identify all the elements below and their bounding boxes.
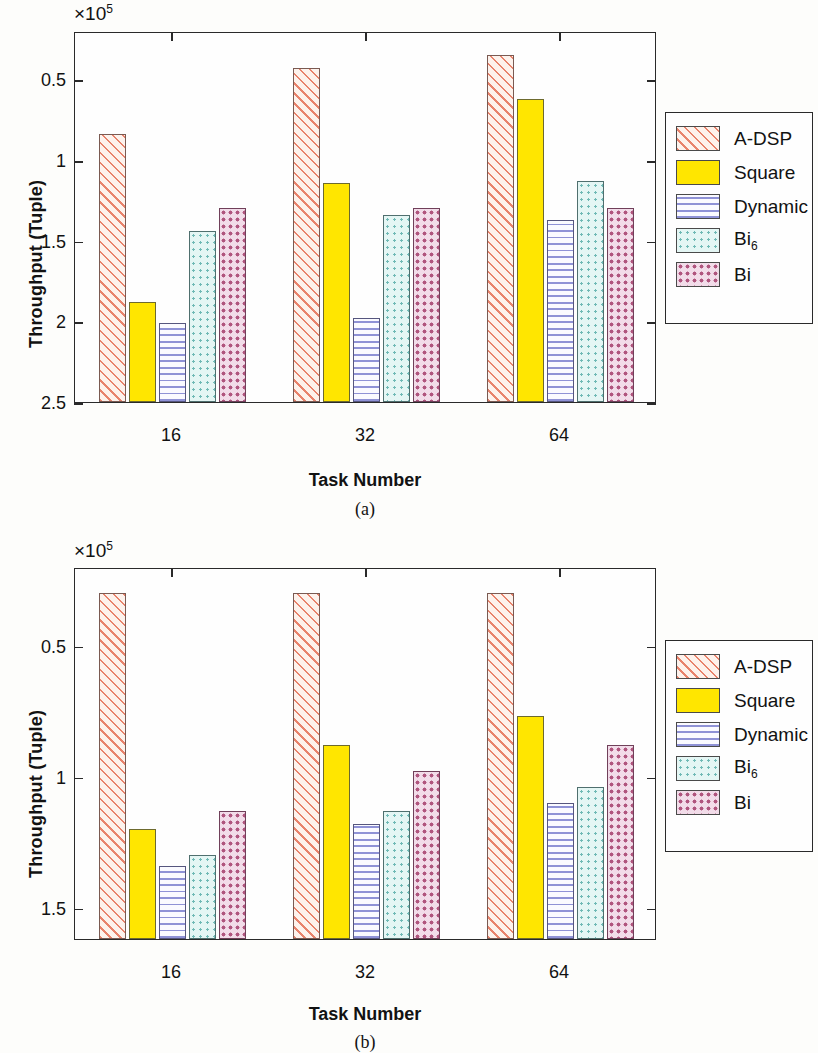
- legend-label-square: Square: [734, 163, 795, 182]
- y-tick-mark: [74, 80, 83, 82]
- x-tick-label-16: 16: [161, 962, 181, 983]
- y-tick-label: 2.5: [6, 393, 66, 414]
- bar-square-32: [323, 745, 350, 939]
- legend-swatch-bi6-icon: [676, 756, 720, 781]
- legend-item-b-1: Square: [676, 683, 802, 717]
- x-tick-label-32: 32: [355, 425, 375, 446]
- bar-dynamic-64: [547, 220, 574, 402]
- bar-square-64: [517, 716, 544, 939]
- x-tick-mark: [171, 32, 173, 41]
- y-tick-mark: [647, 403, 656, 405]
- legend-label-a-dsp: A-DSP: [734, 129, 792, 148]
- x-tick-mark: [559, 32, 561, 41]
- x-tick-mark: [365, 568, 367, 577]
- y-tick-mark: [647, 647, 656, 649]
- bar-bi6-64: [577, 181, 604, 402]
- x-tick-label-32: 32: [355, 962, 375, 983]
- bar-dynamic-32: [353, 824, 380, 939]
- bar-bi6-64: [577, 787, 604, 939]
- y-tick-mark: [647, 80, 656, 82]
- y-tick-label: 1: [6, 151, 66, 172]
- bar-square-64: [517, 99, 544, 402]
- y-tick-label: 1.5: [6, 231, 66, 252]
- legend-item-b-0: A-DSP: [676, 649, 802, 683]
- legend-swatch-bi-icon: [676, 262, 720, 287]
- bar-dynamic-32: [353, 318, 380, 402]
- legend-label-square: Square: [734, 691, 795, 710]
- x-axis-label-b: Task Number: [74, 1004, 656, 1025]
- y-axis-label-b: Throughput (Tuple): [26, 710, 47, 878]
- legend-label-dynamic: Dynamic: [734, 197, 808, 216]
- legend-swatch-dynamic-icon: [676, 722, 720, 747]
- y-axis-exponent-a: ×105: [74, 2, 113, 25]
- y-tick-mark: [74, 909, 83, 911]
- legend-item-a-3: Bi6: [676, 223, 802, 257]
- y-tick-mark: [647, 242, 656, 244]
- legend-item-b-4: Bi: [676, 785, 802, 819]
- x-axis-label-a: Task Number: [74, 470, 656, 491]
- legend-swatch-bi-icon: [676, 790, 720, 815]
- bar-a-dsp-32: [293, 68, 320, 402]
- y-tick-mark: [74, 161, 83, 163]
- y-tick-label: 2: [6, 312, 66, 333]
- plot-area-a: [74, 32, 656, 403]
- bar-bi-16: [219, 208, 246, 402]
- legend-swatch-a-dsp-icon: [676, 126, 720, 151]
- bar-a-dsp-16: [99, 134, 126, 402]
- y-tick-mark: [647, 778, 656, 780]
- bar-square-16: [129, 829, 156, 939]
- legend-item-b-2: Dynamic: [676, 717, 802, 751]
- legend-label-bi: Bi: [734, 793, 751, 812]
- y-tick-mark: [74, 322, 83, 324]
- bar-a-dsp-16: [99, 593, 126, 939]
- y-axis-exponent-b: ×105: [74, 539, 113, 562]
- legend-label-bi: Bi: [734, 265, 751, 284]
- figure-b: ×105 Throughput (Tuple) Task Number (b) …: [0, 523, 818, 1046]
- figure-caption-a: (a): [74, 499, 656, 520]
- y-tick-mark: [647, 909, 656, 911]
- legend-swatch-square-icon: [676, 160, 720, 185]
- legend-swatch-bi6-icon: [676, 228, 720, 253]
- bar-bi-64: [607, 745, 634, 939]
- bar-bi-64: [607, 208, 634, 402]
- bar-bi6-16: [189, 855, 216, 939]
- legend-swatch-square-icon: [676, 688, 720, 713]
- y-tick-mark: [647, 161, 656, 163]
- y-tick-mark: [647, 322, 656, 324]
- y-tick-label: 1: [6, 767, 66, 788]
- bar-a-dsp-64: [487, 593, 514, 939]
- legend-label-dynamic: Dynamic: [734, 725, 808, 744]
- bar-dynamic-16: [159, 323, 186, 402]
- legend-swatch-dynamic-icon: [676, 194, 720, 219]
- y-tick-label: 0.5: [6, 636, 66, 657]
- legend-label-bi6: Bi6: [734, 229, 758, 252]
- legend-b: A-DSP Square Dynamic Bi6 Bi: [665, 640, 813, 852]
- legend-item-b-3: Bi6: [676, 751, 802, 785]
- legend-label-a-dsp: A-DSP: [734, 657, 792, 676]
- x-tick-mark: [559, 568, 561, 577]
- legend-item-a-0: A-DSP: [676, 121, 802, 155]
- x-tick-label-16: 16: [161, 425, 181, 446]
- bar-a-dsp-32: [293, 593, 320, 939]
- x-tick-label-64: 64: [549, 962, 569, 983]
- bar-square-32: [323, 183, 350, 402]
- bar-dynamic-16: [159, 866, 186, 939]
- legend-item-a-1: Square: [676, 155, 802, 189]
- y-tick-label: 0.5: [6, 70, 66, 91]
- legend-a: A-DSP Square Dynamic Bi6 Bi: [665, 112, 813, 324]
- x-tick-label-64: 64: [549, 425, 569, 446]
- legend-label-bi6: Bi6: [734, 757, 758, 780]
- y-tick-mark: [74, 778, 83, 780]
- y-tick-mark: [74, 403, 83, 405]
- bar-dynamic-64: [547, 803, 574, 939]
- bar-square-16: [129, 302, 156, 402]
- y-tick-label: 1.5: [6, 898, 66, 919]
- bar-bi6-32: [383, 811, 410, 939]
- bar-bi-16: [219, 811, 246, 939]
- figure-a: ×105 Throughput (Tuple) Task Number (a) …: [0, 0, 818, 523]
- y-tick-mark: [74, 647, 83, 649]
- bar-a-dsp-64: [487, 55, 514, 402]
- plot-area-b: [74, 568, 656, 940]
- legend-item-a-4: Bi: [676, 257, 802, 291]
- x-tick-mark: [171, 568, 173, 577]
